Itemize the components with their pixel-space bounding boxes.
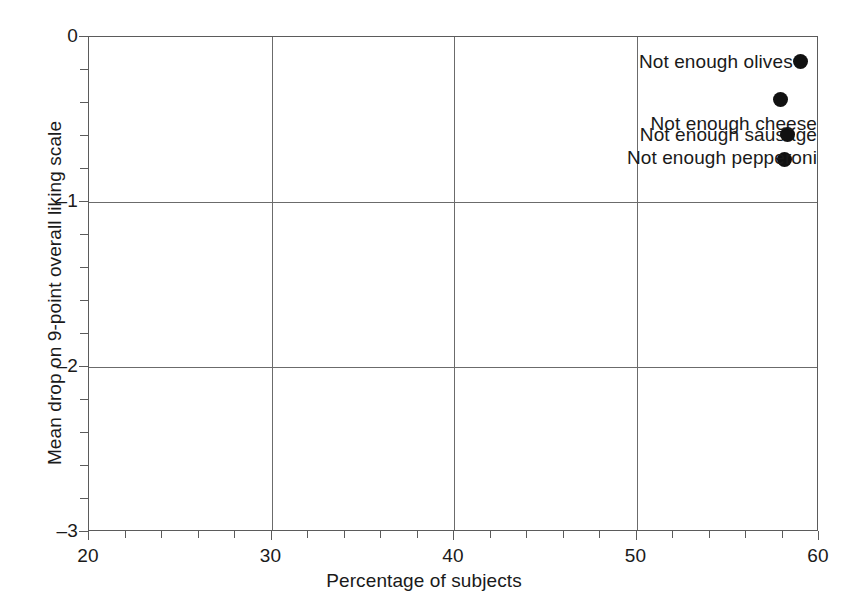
y-tick-label-neg1: –1 [30, 190, 78, 212]
data-point[interactable] [793, 54, 808, 69]
y-tick-neg3 [79, 531, 88, 532]
data-point-label: Not enough cheese [651, 113, 818, 135]
y-tick-label-0: 0 [30, 25, 78, 47]
y-tick-0 [79, 36, 88, 37]
x-axis-label: Percentage of subjects [0, 570, 848, 592]
gridline-x-40 [454, 37, 455, 530]
x-tick-50 [636, 531, 637, 540]
x-tick-36 [380, 531, 381, 538]
y-tick-neg2.2 [80, 399, 88, 400]
x-tick-46 [563, 531, 564, 538]
y-axis-label: Mean drop on 9-point overall liking scal… [44, 83, 66, 503]
y-tick-neg2.8 [80, 498, 88, 499]
x-tick-label-40: 40 [442, 545, 464, 567]
x-tick-42 [490, 531, 491, 538]
x-tick-label-60: 60 [807, 545, 829, 567]
gridline-y-neg2 [89, 367, 817, 368]
y-tick-neg0.4 [80, 102, 88, 103]
y-tick-neg1.8 [80, 333, 88, 334]
y-tick-neg0.6 [80, 135, 88, 136]
x-tick-label-50: 50 [625, 545, 647, 567]
x-tick-34 [344, 531, 345, 538]
x-tick-label-20: 20 [77, 545, 99, 567]
x-tick-32 [307, 531, 308, 538]
x-tick-52 [672, 531, 673, 538]
y-tick-label-neg3: –3 [30, 520, 78, 542]
y-tick-neg1.4 [80, 267, 88, 268]
x-tick-54 [709, 531, 710, 538]
y-tick-neg0.8 [80, 168, 88, 169]
x-tick-30 [271, 531, 272, 540]
x-tick-44 [526, 531, 527, 538]
gridline-x-30 [272, 37, 273, 530]
x-tick-56 [745, 531, 746, 538]
data-point[interactable] [773, 92, 788, 107]
gridline-x-50 [637, 37, 638, 530]
x-tick-20 [88, 531, 89, 540]
x-tick-26 [198, 531, 199, 538]
x-tick-28 [234, 531, 235, 538]
y-tick-neg0.2 [80, 69, 88, 70]
y-tick-neg2 [79, 366, 88, 367]
x-tick-24 [161, 531, 162, 538]
y-tick-neg2.6 [80, 465, 88, 466]
x-tick-40 [453, 531, 454, 540]
x-tick-60 [818, 531, 819, 540]
data-point-label: Not enough pepperoni [627, 147, 817, 169]
y-tick-neg1.2 [80, 234, 88, 235]
x-tick-38 [417, 531, 418, 538]
x-tick-58 [782, 531, 783, 538]
gridline-y-neg1 [89, 202, 817, 203]
plot-area: Not enough sausageNot enough pepperoniNo… [88, 36, 818, 531]
y-tick-neg1 [79, 201, 88, 202]
x-tick-22 [125, 531, 126, 538]
data-point-label: Not enough olives [639, 51, 793, 73]
x-tick-48 [599, 531, 600, 538]
y-tick-label-neg2: –2 [30, 355, 78, 377]
y-tick-neg2.4 [80, 432, 88, 433]
y-tick-neg1.6 [80, 300, 88, 301]
x-tick-label-30: 30 [260, 545, 282, 567]
scatter-chart-figure: Mean drop on 9-point overall liking scal… [0, 0, 848, 614]
